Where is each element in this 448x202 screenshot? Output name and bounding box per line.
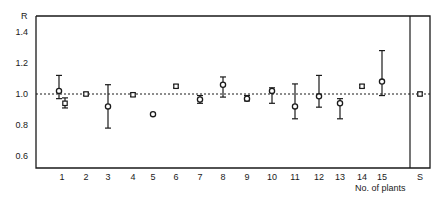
x-tick-label: 3 bbox=[105, 172, 110, 182]
data-point bbox=[130, 93, 136, 97]
data-point bbox=[359, 84, 365, 88]
chart-plot: 0.60.81.01.21.4 123456789101112131415S R… bbox=[0, 0, 448, 202]
square-marker bbox=[418, 92, 422, 96]
x-axis-label: No. of plants bbox=[355, 183, 406, 193]
data-point bbox=[56, 75, 62, 98]
circle-marker bbox=[316, 94, 321, 99]
data-point bbox=[337, 99, 343, 119]
y-axis-label: R bbox=[21, 11, 28, 21]
circle-marker bbox=[337, 101, 342, 106]
square-marker bbox=[84, 92, 88, 96]
x-tick-label: 10 bbox=[267, 172, 277, 182]
y-tick-label: 1.4 bbox=[15, 27, 28, 37]
y-tick-label: 0.6 bbox=[15, 151, 28, 161]
x-tick-label: 15 bbox=[377, 172, 387, 182]
data-point bbox=[105, 85, 111, 128]
x-tick-label: 5 bbox=[150, 172, 155, 182]
data-point bbox=[197, 96, 203, 104]
circle-marker bbox=[56, 88, 61, 93]
data-point bbox=[417, 92, 423, 96]
data-point bbox=[269, 88, 275, 104]
y-tick-label: 1.0 bbox=[15, 89, 28, 99]
square-marker bbox=[174, 84, 178, 88]
x-tick-label: 7 bbox=[197, 172, 202, 182]
square-marker bbox=[131, 93, 135, 97]
square-marker bbox=[63, 101, 67, 105]
x-tick-label: 11 bbox=[290, 172, 299, 182]
data-point bbox=[316, 75, 322, 107]
x-tick-label: 2 bbox=[83, 172, 88, 182]
x-tick-label: 12 bbox=[314, 172, 324, 182]
x-tick-label: 1 bbox=[59, 172, 64, 182]
circle-marker bbox=[197, 97, 202, 102]
data-point bbox=[83, 92, 89, 96]
circle-marker bbox=[150, 112, 155, 117]
circle-marker bbox=[244, 96, 249, 101]
data-point bbox=[379, 51, 385, 96]
circle-marker bbox=[220, 82, 225, 87]
square-marker bbox=[360, 84, 364, 88]
plot-frame bbox=[36, 16, 430, 168]
x-tick-label: 9 bbox=[244, 172, 249, 182]
x-tick-label: 6 bbox=[173, 172, 178, 182]
data-point bbox=[173, 84, 179, 88]
plot-border bbox=[36, 16, 430, 168]
data-point bbox=[292, 84, 298, 119]
data-point bbox=[244, 96, 250, 102]
circle-marker bbox=[269, 88, 274, 93]
circle-marker bbox=[292, 104, 297, 109]
data-point bbox=[150, 112, 155, 117]
y-tick-label: 0.8 bbox=[15, 120, 28, 130]
data-point bbox=[62, 98, 68, 108]
circle-marker bbox=[105, 104, 110, 109]
data-points bbox=[56, 51, 423, 129]
x-tick-label: 4 bbox=[130, 172, 135, 182]
x-tick-label: 14 bbox=[357, 172, 367, 182]
circle-marker bbox=[379, 79, 384, 84]
y-axis: 0.60.81.01.21.4 bbox=[15, 27, 28, 161]
x-tick-label: 8 bbox=[220, 172, 225, 182]
x-tick-label: S bbox=[417, 172, 423, 182]
y-tick-label: 1.2 bbox=[15, 58, 28, 68]
x-axis: 123456789101112131415S bbox=[59, 172, 423, 182]
x-tick-label: 13 bbox=[335, 172, 345, 182]
